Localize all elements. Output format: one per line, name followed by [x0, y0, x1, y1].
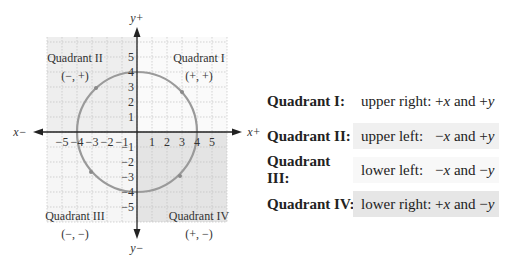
- quadrant-row-description: upper right:+x and +y: [353, 88, 499, 114]
- x-tick-label: 3: [179, 135, 185, 149]
- x-tick-label: −5: [56, 135, 69, 149]
- quadrant-description-row: Quadrant IV:lower right:+x and −y: [267, 191, 355, 217]
- y-tick-label: −4: [121, 185, 134, 199]
- quadrant-row-description: lower left:−x and −y: [353, 157, 499, 183]
- y-tick-label: 2: [128, 95, 134, 109]
- x-axis-right-arrow-icon: [232, 129, 242, 136]
- x-axis-left-arrow-icon: [33, 129, 43, 136]
- x-tick-label: −2: [101, 135, 114, 149]
- axis-label-y-pos: y+: [129, 11, 143, 25]
- quadrant-signs: (+, −): [185, 227, 213, 241]
- quadrant-name: Quadrant II: [47, 51, 103, 65]
- x-tick-label: 1: [149, 135, 155, 149]
- y-tick-label: −3: [121, 170, 134, 184]
- quadrant-row-description: upper left:−x and +y: [353, 123, 499, 149]
- quadrant-row-label: Quadrant III:: [267, 153, 355, 187]
- y-tick-label: 1: [128, 110, 134, 124]
- y-tick-label: 3: [128, 80, 134, 94]
- y-tick-label: 5: [128, 50, 134, 64]
- y-tick-label: 4: [128, 65, 134, 79]
- quadrant-description-row: Quadrant III:lower left:−x and −y: [267, 157, 355, 183]
- y-axis-down-arrow-icon: [134, 229, 141, 239]
- quadrant-name: Quadrant III: [45, 209, 105, 223]
- axis-label-y-neg: y−: [129, 241, 143, 255]
- quadrant-signs: (−, −): [61, 227, 89, 241]
- y-tick-label: −2: [121, 155, 134, 169]
- quadrant-description-row: Quadrant II:upper left:−x and +y: [267, 123, 355, 149]
- quadrant-row-label: Quadrant I:: [267, 93, 355, 110]
- quadrant-name: Quadrant I: [173, 51, 225, 65]
- x-tick-label: −4: [71, 135, 84, 149]
- quadrant-signs: (−, +): [61, 69, 89, 83]
- x-tick-label: 4: [194, 135, 200, 149]
- quadrant-signs: (+, +): [185, 69, 213, 83]
- quadrant-row-label: Quadrant IV:: [267, 196, 355, 213]
- axis-label-x-neg: x−: [12, 125, 26, 139]
- quadrant-row-description: lower right:+x and −y: [353, 191, 499, 217]
- x-tick-label: 5: [209, 135, 215, 149]
- x-tick-label: −3: [86, 135, 99, 149]
- y-tick-label: −1: [121, 140, 134, 154]
- y-axis-up-arrow-icon: [134, 27, 141, 37]
- quadrant-row-label: Quadrant II:: [267, 128, 355, 145]
- x-tick-label: 2: [164, 135, 170, 149]
- axis-label-x-pos: x+: [246, 125, 260, 139]
- y-tick-label: −5: [121, 200, 134, 214]
- quadrant-description-row: Quadrant I:upper right:+x and +y: [267, 88, 355, 114]
- quadrant-name: Quadrant IV: [169, 209, 230, 223]
- coordinate-plane: y+ y− x− x+ −5−4−3−2−11234554321−1−2−3−4…: [0, 0, 260, 260]
